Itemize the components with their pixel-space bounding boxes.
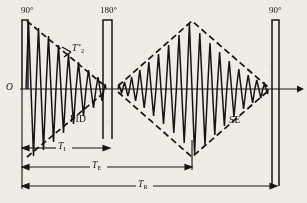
ti-base: T [58, 141, 63, 151]
tr-base: T [138, 179, 143, 189]
rf-pulse-90-second-shape [272, 20, 279, 186]
timing-bar-tr [22, 183, 277, 188]
timing-label-te: TE [92, 161, 101, 171]
timing-label-ti: TI [58, 142, 65, 152]
t2-star-base: T [72, 43, 77, 53]
time-axis [20, 86, 304, 93]
t2-star-envelope-label: T*2 [72, 44, 84, 54]
rf-pulse-90-first-label: 90° [21, 6, 34, 15]
rf-pulse-180-label: 180° [100, 6, 117, 15]
origin-label: O [6, 83, 13, 93]
fid-label: FID [70, 115, 86, 125]
pulse-sequence-plot [0, 0, 307, 203]
te-subscript: E [98, 164, 102, 171]
t2-star-subscript: 2 [81, 47, 84, 54]
figure-canvas: 90° 180° 90° O T*2 FID SE TI TE TR [0, 0, 307, 203]
timing-label-tr: TR [138, 180, 148, 190]
spin-echo-label: SE [229, 116, 241, 126]
tr-subscript: R [144, 183, 148, 190]
timing-guide-lines [22, 89, 192, 189]
rf-pulse-90-second-label: 90° [269, 6, 282, 15]
timing-bar-te [22, 164, 192, 169]
rf-pulse-180-shape [103, 20, 112, 139]
ti-subscript: I [64, 145, 66, 152]
te-base: T [92, 160, 97, 170]
